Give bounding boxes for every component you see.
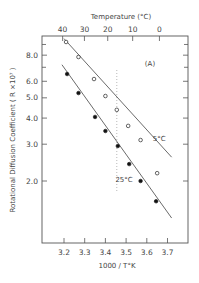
data-point-open — [139, 138, 143, 142]
data-point-filled — [154, 199, 158, 203]
x-tick-label: 3.2 — [58, 248, 70, 257]
top-tick-label: 40 — [58, 25, 68, 34]
x-axis-label: 1000 / T°K — [99, 262, 136, 270]
data-point-filled — [77, 91, 81, 95]
data-point-open — [92, 77, 96, 81]
top-tick-label: 10 — [128, 25, 138, 34]
data-point-filled — [65, 72, 69, 76]
x-tick-label: 3.5 — [120, 248, 132, 257]
data-point-filled — [139, 179, 143, 183]
data-point-open — [104, 94, 108, 98]
data-point-open — [126, 124, 130, 128]
chart: 3.23.33.43.53.63.71000 / T°K2.03.04.05.0… — [0, 0, 199, 283]
data-point-filled — [93, 115, 97, 119]
y-tick-label: 3.0 — [26, 140, 38, 149]
top-tick-label: 30 — [80, 25, 90, 34]
x-tick-label: 3.6 — [141, 248, 153, 257]
y-tick-label: 4.0 — [26, 114, 38, 123]
y-tick-label: 8.0 — [26, 51, 38, 60]
x-tick-label: 3.7 — [162, 248, 174, 257]
top-axis-label: Temperature (°C) — [90, 13, 152, 21]
data-point-open — [155, 171, 159, 175]
y-axis-label: Rotational Diffusion Coefficient ( R ×10… — [9, 67, 17, 212]
data-point-filled — [116, 144, 120, 148]
data-point-open — [115, 108, 119, 112]
data-point-open — [64, 40, 68, 44]
data-point-filled — [127, 162, 131, 166]
y-tick-label: 2.0 — [26, 177, 38, 186]
data-point-open — [77, 55, 81, 59]
top-tick-label: 0 — [157, 25, 162, 34]
y-tick-label: 5.0 — [26, 93, 38, 102]
data-point-filled — [104, 129, 108, 133]
panel-label: (A) — [145, 60, 156, 68]
top-tick-label: 20 — [103, 25, 113, 34]
x-tick-label: 3.4 — [99, 248, 111, 257]
y-tick-label: 6.0 — [26, 77, 38, 86]
x-tick-label: 3.3 — [79, 248, 91, 257]
series-annotation: 25°C — [115, 176, 132, 184]
series-annotation: 5°C — [153, 135, 166, 143]
